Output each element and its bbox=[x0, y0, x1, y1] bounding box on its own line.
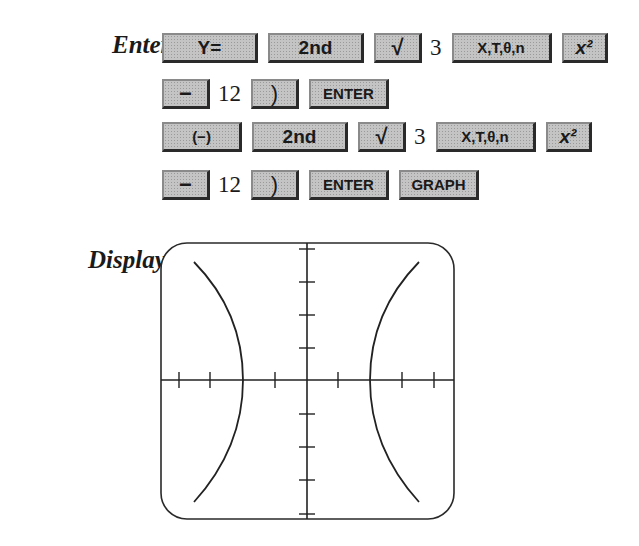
calculator-key[interactable]: x² bbox=[546, 122, 592, 152]
calculator-key[interactable]: ) bbox=[251, 79, 299, 109]
typed-number: 3 bbox=[430, 35, 442, 61]
calculator-display-graph bbox=[160, 242, 456, 522]
calculator-key[interactable]: √ bbox=[374, 33, 422, 63]
keystroke-row: (−)2nd√3X,T,θ,nx² bbox=[162, 122, 602, 152]
calculator-key[interactable]: ENTER bbox=[309, 170, 389, 200]
calculator-key[interactable]: Y= bbox=[162, 33, 258, 63]
typed-number: 3 bbox=[414, 124, 426, 150]
keystroke-row: −12)ENTER bbox=[162, 79, 399, 109]
calculator-key[interactable]: √ bbox=[358, 122, 406, 152]
typed-number: 12 bbox=[218, 81, 241, 107]
calculator-key[interactable]: 2nd bbox=[268, 33, 364, 63]
calculator-key[interactable]: − bbox=[162, 79, 210, 109]
calculator-key[interactable]: X,T,θ,n bbox=[452, 33, 552, 63]
typed-number: 12 bbox=[218, 172, 241, 198]
calculator-key[interactable]: − bbox=[162, 170, 210, 200]
keystroke-row: Y=2nd√3X,T,θ,nx² bbox=[162, 33, 618, 63]
keystroke-row: −12)ENTERGRAPH bbox=[162, 170, 489, 200]
calculator-key[interactable]: ) bbox=[251, 170, 299, 200]
calculator-key[interactable]: ENTER bbox=[309, 79, 389, 109]
calculator-key[interactable]: x² bbox=[562, 33, 608, 63]
calculator-key[interactable]: X,T,θ,n bbox=[436, 122, 536, 152]
calculator-key[interactable]: GRAPH bbox=[399, 170, 479, 200]
calculator-key[interactable]: (−) bbox=[162, 122, 242, 152]
calculator-key[interactable]: 2nd bbox=[252, 122, 348, 152]
